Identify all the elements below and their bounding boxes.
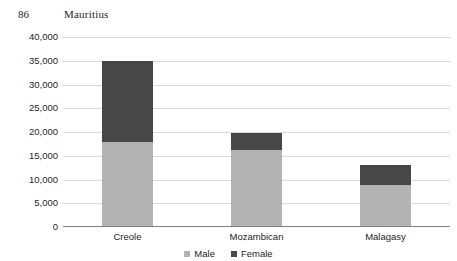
y-axis-tick-label: 10,000 bbox=[0, 175, 58, 185]
bar-segment-male bbox=[231, 150, 282, 226]
page-title: Mauritius bbox=[64, 6, 109, 22]
x-axis-category-label: Creole bbox=[63, 230, 193, 244]
bar-stack bbox=[360, 165, 411, 226]
bar-segment-female bbox=[360, 165, 411, 185]
bar-segment-female bbox=[102, 61, 153, 142]
x-axis-category-labels: CreoleMozambicanMalagasy bbox=[63, 230, 450, 246]
bar-stack bbox=[102, 61, 153, 226]
y-axis-tick-labels: 40,00035,00030,00025,00020,00015,00010,0… bbox=[0, 37, 58, 227]
y-axis-tick-label: 5,000 bbox=[0, 198, 58, 208]
x-axis-category-label: Malagasy bbox=[321, 230, 451, 244]
bar-segment-female bbox=[231, 133, 282, 150]
gridline bbox=[63, 37, 450, 38]
legend-item: Male bbox=[184, 248, 215, 259]
plot-area bbox=[63, 37, 450, 227]
y-axis-tick-label: 0 bbox=[0, 222, 58, 232]
legend-label: Female bbox=[241, 248, 273, 259]
y-axis-tick-label: 25,000 bbox=[0, 103, 58, 113]
chart-legend: MaleFemale bbox=[0, 248, 457, 259]
legend-item: Female bbox=[231, 248, 273, 259]
y-axis-tick-label: 35,000 bbox=[0, 56, 58, 66]
stacked-bar-chart: 40,00035,00030,00025,00020,00015,00010,0… bbox=[0, 30, 457, 261]
y-axis-tick-label: 30,000 bbox=[0, 80, 58, 90]
y-axis-tick-label: 15,000 bbox=[0, 151, 58, 161]
page: 86 Mauritius 40,00035,00030,00025,00020,… bbox=[0, 0, 457, 261]
x-axis-category-label: Mozambican bbox=[192, 230, 322, 244]
y-axis-tick-label: 40,000 bbox=[0, 32, 58, 42]
y-axis-tick-label: 20,000 bbox=[0, 127, 58, 137]
legend-swatch-icon bbox=[231, 251, 237, 257]
x-axis-line bbox=[63, 226, 450, 227]
running-head: 86 Mauritius bbox=[0, 6, 457, 24]
bar-segment-male bbox=[102, 142, 153, 226]
legend-label: Male bbox=[194, 248, 215, 259]
page-number: 86 bbox=[18, 6, 29, 22]
bar-stack bbox=[231, 133, 282, 226]
legend-swatch-icon bbox=[184, 251, 190, 257]
bar-segment-male bbox=[360, 185, 411, 226]
